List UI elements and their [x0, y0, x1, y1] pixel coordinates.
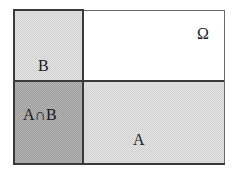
label-b: B — [38, 58, 49, 74]
border-top-right — [83, 10, 225, 11]
label-omega: Ω — [197, 26, 209, 42]
border-top-left — [13, 9, 84, 11]
region-omega — [83, 10, 224, 81]
border-right — [224, 10, 225, 165]
label-a-intersect-b: A∩B — [23, 107, 57, 123]
border-bottom — [13, 163, 225, 165]
divider-vertical — [82, 10, 84, 164]
region-a — [83, 81, 224, 164]
border-left — [13, 9, 15, 165]
label-a: A — [133, 132, 145, 148]
venn-rectangle-diagram: B Ω A∩B A — [0, 0, 238, 175]
divider-horizontal — [14, 80, 224, 82]
